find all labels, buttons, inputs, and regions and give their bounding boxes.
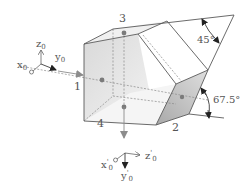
axis-y0-prime-label: y'0 [120,169,133,183]
dot-face-3 [122,31,127,36]
label-angle-45: 45° [197,34,215,45]
axis-x0-prime-label: x'0 [101,158,113,172]
dot-face-2 [180,95,184,99]
angle-67-arrows [201,88,209,118]
axis-z0-prime-label: z'0 [145,149,157,163]
input-beam-arrow [58,71,83,75]
label-face-3: 3 [119,12,126,25]
prism-diagram: 3 1 4 2 45° 67.5° z0 y0 x0 x'0 z'0 y'0 [0,0,252,189]
x-prime-axis-origin-icon [114,158,118,162]
axis-z0-label: z0 [36,38,46,51]
x-axis-origin-icon [30,70,34,74]
dot-face-1 [100,78,105,83]
axis-y0-label: y0 [54,51,65,64]
prism-faces [84,21,208,125]
axis-x0-label: x0 [17,59,27,72]
label-face-4: 4 [97,117,104,130]
label-face-1: 1 [74,80,81,93]
label-angle-67: 67.5° [213,94,240,105]
output-axes: x'0 z'0 y'0 [101,149,157,183]
input-axes: z0 y0 x0 [17,38,65,74]
label-face-2: 2 [172,121,179,134]
